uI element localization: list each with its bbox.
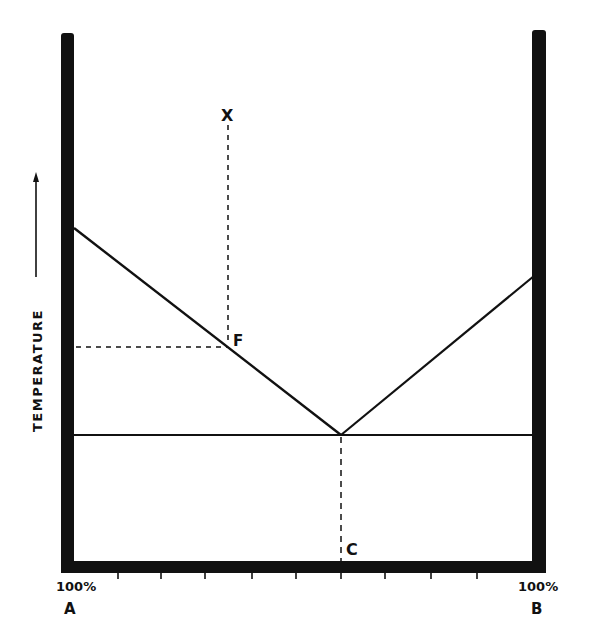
bottom-axis-bar: [61, 561, 546, 573]
right-axis-bar: [532, 30, 546, 573]
point-x-label: X: [221, 106, 234, 125]
left-component-label: A: [64, 600, 76, 618]
liquidus-line-a: [74, 228, 341, 435]
left-axis-bar: [61, 33, 74, 573]
left-percent-label: 100%: [56, 579, 96, 594]
x-axis-ticks: [118, 573, 477, 579]
point-c-label: C: [346, 540, 358, 559]
right-percent-label: 100%: [518, 579, 558, 594]
temperature-arrow-icon: [33, 172, 39, 277]
liquidus-line-b: [341, 276, 534, 435]
right-component-label: B: [531, 600, 542, 618]
y-axis-label: TEMPERATURE: [30, 309, 45, 432]
point-f-label: F: [233, 332, 243, 350]
phase-diagram: TEMPERATURE X F C 100% A 100% B: [0, 0, 596, 635]
